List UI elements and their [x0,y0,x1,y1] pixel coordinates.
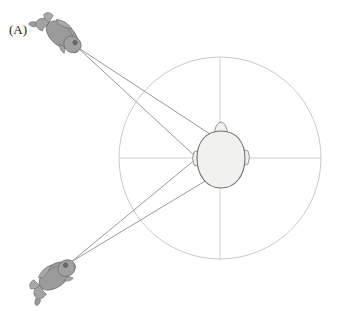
frog-upper-left [28,5,88,60]
figure-panel: (A) [0,0,357,311]
panel-label: (A) [9,22,27,37]
ray-lower-frog-to-left-ear [71,158,197,262]
skull-outline [197,131,245,188]
listener-head [193,122,250,188]
ray-upper-frog-to-left-ear [77,47,197,158]
figure-canvas: (A) [0,0,357,311]
